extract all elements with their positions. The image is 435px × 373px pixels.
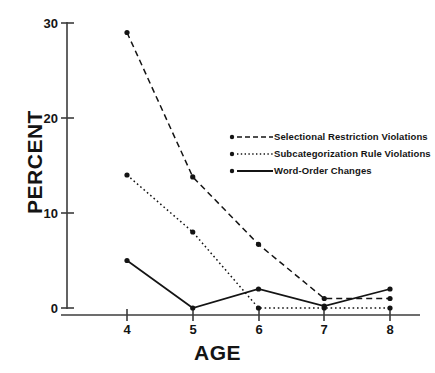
- legend-label-selectional-restriction-violations: Selectional Restriction Violations: [274, 131, 428, 142]
- plot-area: [0, 0, 435, 373]
- data-point: [256, 242, 261, 247]
- data-point: [256, 286, 261, 291]
- data-point: [124, 258, 129, 263]
- data-point: [124, 172, 129, 177]
- legend-key-dotted-icon: [228, 148, 274, 160]
- legend-item-subcategorization-rule-violations: Subcategorization Rule Violations: [228, 145, 433, 162]
- legend-item-word-order-changes: Word-Order Changes: [228, 162, 433, 179]
- data-point: [190, 174, 195, 179]
- legend-key-dashed-icon: [228, 131, 274, 143]
- data-point: [256, 305, 261, 310]
- data-point: [387, 305, 392, 310]
- data-point: [387, 286, 392, 291]
- legend-item-selectional-restriction-violations: Selectional Restriction Violations: [228, 128, 433, 145]
- data-point: [322, 304, 327, 309]
- series-word-order-changes: [124, 258, 392, 311]
- data-point: [190, 305, 195, 310]
- legend-label-word-order-changes: Word-Order Changes: [274, 165, 372, 176]
- chart-legend: Selectional Restriction Violations Subca…: [228, 128, 433, 179]
- data-point: [322, 296, 327, 301]
- line-chart-figure: PERCENT AGE 30 20 10 0 4 5 6 7 8: [0, 0, 435, 373]
- legend-key-solid-icon: [228, 165, 274, 177]
- series-line: [127, 261, 390, 309]
- data-point: [124, 30, 129, 35]
- data-point: [190, 229, 195, 234]
- data-point: [387, 296, 392, 301]
- legend-label-subcategorization-rule-violations: Subcategorization Rule Violations: [274, 148, 431, 159]
